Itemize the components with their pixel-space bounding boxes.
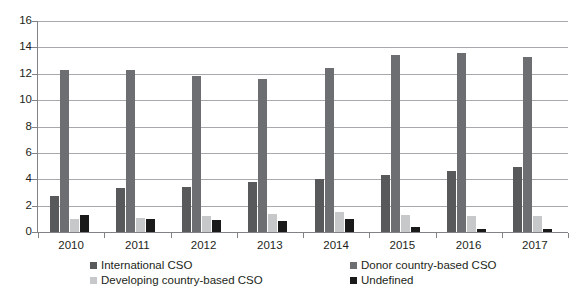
x-tick-mark xyxy=(436,233,437,238)
bar xyxy=(513,167,522,232)
bar xyxy=(268,214,277,232)
bar xyxy=(345,219,354,232)
legend-swatch-icon xyxy=(350,262,357,269)
bar-group xyxy=(369,21,435,232)
bar-group xyxy=(436,21,502,232)
bar xyxy=(325,68,334,232)
bar xyxy=(335,212,344,232)
x-tick-mark xyxy=(303,233,304,238)
bar-group xyxy=(104,21,170,232)
x-tick-mark xyxy=(502,233,503,238)
y-tick-mark xyxy=(32,100,37,101)
y-tick-label: 16 xyxy=(19,15,32,27)
bar-groups xyxy=(38,21,568,232)
bar-group xyxy=(502,21,568,232)
x-tick-label: 2010 xyxy=(58,239,84,252)
bar xyxy=(212,220,221,232)
y-tick-mark xyxy=(32,47,37,48)
legend-item-donor-country-based-cso[interactable]: Donor country-based CSO xyxy=(350,259,497,272)
bar-group xyxy=(303,21,369,232)
x-axis-labels: 20102011201220132014201520162017 xyxy=(38,239,568,255)
bar-group xyxy=(38,21,104,232)
bar xyxy=(411,227,420,232)
x-tick-label: 2014 xyxy=(323,239,349,252)
x-tick-mark xyxy=(568,233,569,238)
x-tick-label: 2015 xyxy=(390,239,416,252)
legend-item-developing-country-based-cso[interactable]: Developing country-based CSO xyxy=(90,274,263,287)
y-tick-mark xyxy=(32,21,37,22)
x-tick-mark xyxy=(369,233,370,238)
bar xyxy=(258,79,267,232)
chart-figure: 0246810121416 20102011201220132014201520… xyxy=(0,0,580,306)
bar xyxy=(50,196,59,232)
bar xyxy=(192,76,201,232)
bar xyxy=(202,216,211,232)
bar xyxy=(60,70,69,232)
y-tick-mark xyxy=(32,179,37,180)
y-tick-mark xyxy=(32,74,37,75)
bar xyxy=(70,219,79,232)
bar xyxy=(146,219,155,232)
x-tick-mark xyxy=(237,233,238,238)
y-tick-label: 14 xyxy=(19,42,32,54)
x-tick-label: 2017 xyxy=(522,239,548,252)
y-tick-label: 12 xyxy=(19,68,32,80)
bar xyxy=(80,215,89,232)
legend-label: Undefined xyxy=(361,274,413,287)
bar xyxy=(248,182,257,232)
bar xyxy=(543,229,552,232)
y-tick-mark xyxy=(32,127,37,128)
x-tick-label: 2011 xyxy=(125,239,150,252)
bar-group xyxy=(171,21,237,232)
chart-legend: International CSO Donor country-based CS… xyxy=(0,259,580,289)
bar xyxy=(523,57,532,232)
bar xyxy=(182,187,191,232)
bar xyxy=(315,179,324,232)
bar xyxy=(477,229,486,232)
legend-swatch-icon xyxy=(90,277,97,284)
bar xyxy=(533,216,542,232)
y-tick-label: 10 xyxy=(19,94,32,106)
x-tick-label: 2012 xyxy=(191,239,217,252)
bar xyxy=(391,55,400,232)
legend-label: Donor country-based CSO xyxy=(361,259,497,272)
legend-swatch-icon xyxy=(350,277,357,284)
legend-item-international-cso[interactable]: International CSO xyxy=(90,259,192,272)
y-tick-mark xyxy=(32,232,37,233)
bar xyxy=(278,221,287,232)
x-tick-mark xyxy=(171,233,172,238)
bar xyxy=(401,215,410,232)
bar xyxy=(381,175,390,232)
x-tick-label: 2016 xyxy=(456,239,482,252)
bar xyxy=(116,188,125,232)
bar xyxy=(457,53,466,232)
legend-label: Developing country-based CSO xyxy=(101,274,263,287)
x-tick-label: 2013 xyxy=(257,239,283,252)
legend-item-undefined[interactable]: Undefined xyxy=(350,274,413,287)
y-axis-labels: 0246810121416 xyxy=(0,21,32,232)
legend-swatch-icon xyxy=(90,262,97,269)
legend-label: International CSO xyxy=(101,259,192,272)
bar xyxy=(447,171,456,232)
bar-group xyxy=(237,21,303,232)
y-tick-mark xyxy=(32,206,37,207)
bar xyxy=(126,70,135,232)
x-tick-mark xyxy=(104,233,105,238)
bar xyxy=(467,216,476,232)
x-tick-mark xyxy=(38,233,39,238)
bar xyxy=(136,218,145,233)
y-tick-mark xyxy=(32,153,37,154)
